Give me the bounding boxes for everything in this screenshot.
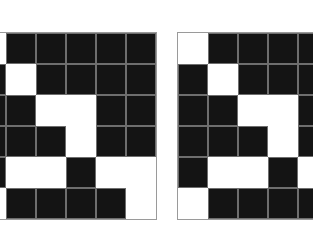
empty-cell — [208, 157, 238, 188]
filled-cell — [238, 188, 268, 219]
filled-cell — [6, 95, 36, 126]
empty-cell — [298, 157, 313, 188]
filled-cell — [66, 64, 96, 95]
empty-cell — [6, 157, 36, 188]
filled-cell — [96, 126, 126, 157]
empty-cell — [36, 95, 66, 126]
filled-cell — [6, 33, 36, 64]
filled-cell — [268, 188, 298, 219]
filled-cell — [126, 95, 156, 126]
binary-grid-right — [177, 32, 313, 220]
filled-cell — [268, 157, 298, 188]
filled-cell — [6, 188, 36, 219]
filled-cell — [96, 95, 126, 126]
filled-cell — [178, 95, 208, 126]
filled-cell — [208, 33, 238, 64]
empty-cell — [6, 64, 36, 95]
filled-cell — [178, 157, 208, 188]
filled-cell — [208, 126, 238, 157]
filled-cell — [36, 33, 66, 64]
filled-cell — [96, 64, 126, 95]
filled-cell — [208, 95, 238, 126]
filled-cell — [268, 33, 298, 64]
empty-cell — [208, 64, 238, 95]
filled-cell — [208, 188, 238, 219]
filled-cell — [268, 64, 298, 95]
empty-cell — [268, 95, 298, 126]
empty-cell — [126, 157, 156, 188]
empty-cell — [66, 95, 96, 126]
empty-cell — [268, 126, 298, 157]
filled-cell — [126, 126, 156, 157]
empty-cell — [178, 188, 208, 219]
empty-cell — [66, 126, 96, 157]
filled-cell — [298, 126, 313, 157]
filled-cell — [66, 157, 96, 188]
filled-cell — [126, 33, 156, 64]
empty-cell — [36, 157, 66, 188]
empty-cell — [96, 157, 126, 188]
filled-cell — [238, 126, 268, 157]
empty-cell — [126, 188, 156, 219]
filled-cell — [36, 188, 66, 219]
filled-cell — [298, 188, 313, 219]
filled-cell — [298, 64, 313, 95]
filled-cell — [66, 188, 96, 219]
filled-cell — [36, 126, 66, 157]
filled-cell — [96, 33, 126, 64]
filled-cell — [66, 33, 96, 64]
filled-cell — [238, 33, 268, 64]
filled-cell — [178, 64, 208, 95]
filled-cell — [238, 64, 268, 95]
filled-cell — [96, 188, 126, 219]
filled-cell — [126, 64, 156, 95]
filled-cell — [178, 126, 208, 157]
filled-cell — [298, 33, 313, 64]
filled-cell — [36, 64, 66, 95]
empty-cell — [238, 95, 268, 126]
filled-cell — [298, 95, 313, 126]
binary-grid-left — [0, 32, 157, 220]
empty-cell — [178, 33, 208, 64]
filled-cell — [6, 126, 36, 157]
empty-cell — [238, 157, 268, 188]
